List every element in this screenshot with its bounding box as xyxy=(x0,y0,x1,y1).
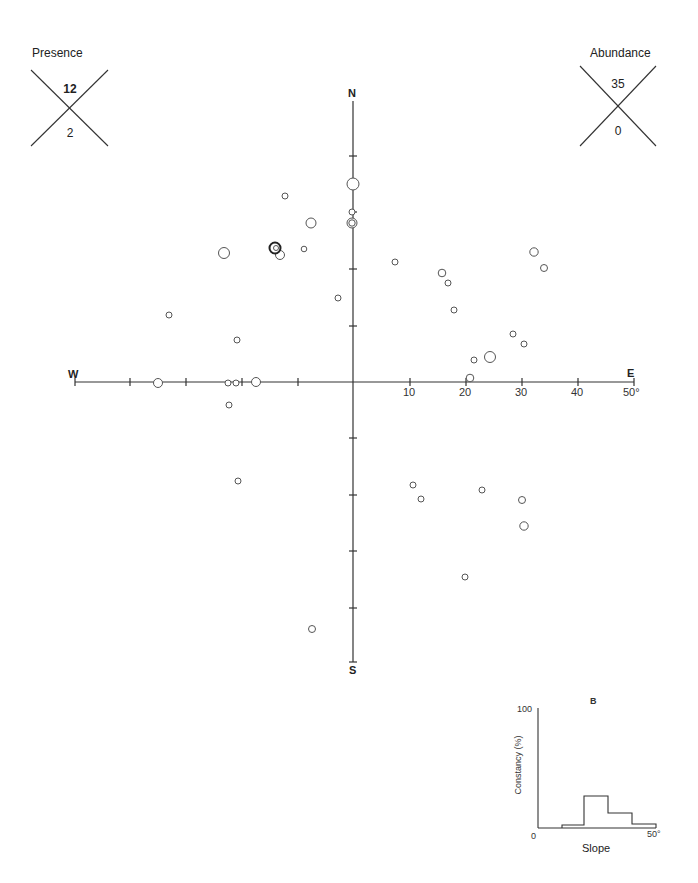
sample-point xyxy=(226,402,232,408)
west-label: W xyxy=(68,368,78,380)
sample-point xyxy=(233,380,239,386)
sample-point xyxy=(479,487,485,493)
sample-point xyxy=(234,337,240,343)
histogram-xlabel: Slope xyxy=(582,842,610,854)
south-label: S xyxy=(349,664,356,676)
abundance-max-value: 35 xyxy=(603,77,633,91)
histogram-x-end-label: 50° xyxy=(647,829,661,839)
east-tick-30: 30 xyxy=(515,386,527,398)
sample-point xyxy=(462,574,468,580)
sample-point-inner xyxy=(349,220,355,226)
abundance-min-value: 0 xyxy=(603,124,633,138)
histogram-y-top-label: 100 xyxy=(517,704,532,714)
sample-points xyxy=(154,178,548,633)
sample-point xyxy=(347,178,359,190)
sample-point xyxy=(154,379,163,388)
sample-point xyxy=(349,209,355,215)
sample-point xyxy=(445,280,451,286)
sample-point xyxy=(252,378,261,387)
sample-point xyxy=(166,312,172,318)
sample-point xyxy=(392,259,398,265)
sample-point xyxy=(485,352,496,363)
sample-point xyxy=(519,497,526,504)
sample-point xyxy=(466,374,474,382)
sample-point xyxy=(520,522,528,530)
sample-point-inner xyxy=(274,246,279,251)
east-tick-50: 50° xyxy=(623,386,640,398)
sample-point xyxy=(301,246,307,252)
histogram-ylabel: Constancy (%) xyxy=(513,725,523,805)
east-label: E xyxy=(627,367,634,379)
east-tick-10: 10 xyxy=(403,386,415,398)
sample-point xyxy=(451,307,457,313)
sample-point xyxy=(225,380,231,386)
histogram-b xyxy=(538,708,656,828)
sample-point xyxy=(309,626,316,633)
east-tick-20: 20 xyxy=(459,386,471,398)
sample-point xyxy=(530,248,538,256)
sample-point xyxy=(521,341,527,347)
diagram-canvas xyxy=(0,0,698,883)
east-tick-40: 40 xyxy=(571,386,583,398)
sample-point xyxy=(282,193,288,199)
histogram-panel-label: B xyxy=(590,696,597,706)
sample-point xyxy=(418,496,424,502)
sample-point xyxy=(471,357,477,363)
presence-min-value: 2 xyxy=(55,126,85,140)
sample-point xyxy=(235,478,241,484)
north-label: N xyxy=(348,87,356,99)
sample-point xyxy=(541,265,548,272)
sample-point xyxy=(438,269,446,277)
sample-point xyxy=(306,218,316,228)
sample-point xyxy=(335,295,341,301)
sample-point xyxy=(219,248,230,259)
sample-point xyxy=(510,331,516,337)
sample-point xyxy=(410,482,416,488)
histogram-x-start-label: 0 xyxy=(531,831,536,841)
presence-max-value: 12 xyxy=(55,82,85,96)
